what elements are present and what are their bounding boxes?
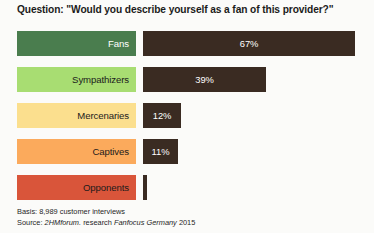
category-label: Mercenaries xyxy=(77,110,129,121)
chart-row: Sympathizers39% xyxy=(0,67,374,92)
value-label: 11% xyxy=(152,146,170,157)
source-study: Fanfocus Germany xyxy=(114,218,177,227)
chart-row: Captives11% xyxy=(0,139,374,164)
footnote-basis: Basis: 8,989 customer interviews xyxy=(17,207,195,218)
value-label: 12% xyxy=(153,110,171,121)
value-bar-fans: 67% xyxy=(143,31,355,56)
category-label: Fans xyxy=(108,38,129,49)
source-year: 2015 xyxy=(177,218,196,227)
category-box-mercenaries[interactable]: Mercenaries xyxy=(17,103,136,128)
category-label: Sympathizers xyxy=(72,74,129,85)
value-bar-sympathizers: 39% xyxy=(143,67,266,92)
value-label: 67% xyxy=(240,38,258,49)
value-bar-captives: 11% xyxy=(143,139,178,164)
value-bar-opponents xyxy=(143,175,147,200)
value-label: 39% xyxy=(195,74,213,85)
chart-row: Fans67% xyxy=(0,31,374,56)
value-bar-mercenaries: 12% xyxy=(143,103,181,128)
source-middle: research xyxy=(81,218,114,227)
chart-row: Opponents xyxy=(0,175,374,200)
source-prefix: Source: xyxy=(17,218,45,227)
category-box-opponents[interactable]: Opponents xyxy=(17,175,136,200)
chart-footnote: Basis: 8,989 customer interviews Source:… xyxy=(17,207,195,228)
chart-title: Question: "Would you describe yourself a… xyxy=(17,4,333,15)
category-box-captives[interactable]: Captives xyxy=(17,139,136,164)
fan-segmentation-chart: Question: "Would you describe yourself a… xyxy=(0,0,374,233)
category-label: Captives xyxy=(92,146,129,157)
footnote-source: Source: 2HMforum. research Fanfocus Germ… xyxy=(17,218,195,229)
category-label: Opponents xyxy=(83,182,129,193)
source-organization: 2HMforum. xyxy=(45,218,82,227)
chart-row: Mercenaries12% xyxy=(0,103,374,128)
bar-rows: Fans67%Sympathizers39%Mercenaries12%Capt… xyxy=(0,31,374,211)
category-box-sympathizers[interactable]: Sympathizers xyxy=(17,67,136,92)
category-box-fans[interactable]: Fans xyxy=(17,31,136,56)
